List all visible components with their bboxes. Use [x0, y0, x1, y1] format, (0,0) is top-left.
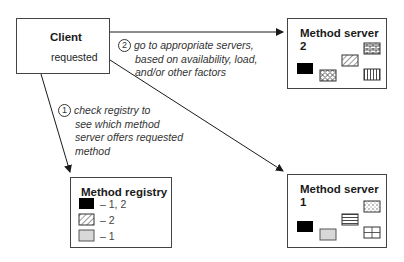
- method-server-1-box: Method server 1: [287, 174, 387, 248]
- registry-entry-label: – 2: [100, 214, 115, 226]
- client-title: Client: [50, 31, 82, 43]
- client-box: Client requested: [16, 18, 110, 74]
- server2-title-line2: 2: [300, 40, 306, 52]
- registry-entry-label: – 1, 2: [100, 198, 126, 210]
- method-registry-box: Method registry – 1, 2 – 2 – 1: [70, 177, 172, 248]
- server1-title-line2: 1: [300, 196, 306, 208]
- server1-title-line1: Method server: [300, 183, 379, 195]
- registry-title: Method registry: [81, 186, 167, 198]
- server2-title-line1: Method server: [300, 27, 379, 39]
- step-1-annotation: 1check registry to see which method serv…: [58, 104, 183, 158]
- requested-label: requested: [51, 51, 98, 63]
- step-number-badge: 2: [118, 39, 131, 52]
- step-number-badge: 1: [58, 104, 71, 117]
- registry-entry-label: – 1: [100, 230, 115, 242]
- step-2-annotation: 2go to appropriate servers, based on ava…: [118, 39, 257, 80]
- method-server-2-box: Method server 2: [287, 18, 387, 89]
